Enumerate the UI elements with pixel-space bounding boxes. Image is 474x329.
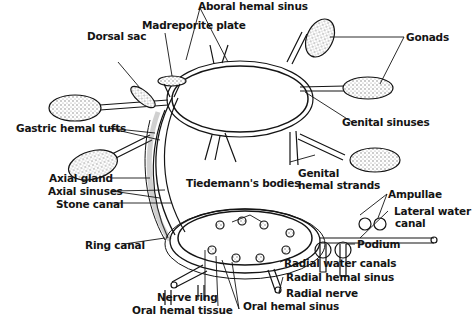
aboral-hemal-ring: [167, 61, 313, 137]
label-lateral-water-canal-1: Lateral water: [394, 206, 471, 217]
label-nerve-ring: Nerve ring: [157, 292, 217, 303]
label-stone-canal: Stone canal: [56, 199, 123, 210]
label-genital-sinuses: Genital sinuses: [342, 117, 430, 128]
anatomy-diagram: [0, 0, 474, 329]
label-radial-water-canals: Radial water canals: [284, 258, 396, 269]
label-madreporite-plate: Madreporite plate: [142, 20, 246, 31]
label-gonads: Gonads: [406, 32, 449, 43]
tiedemanns-bodies: [208, 217, 294, 262]
label-oral-hemal-tissue: Oral hemal tissue: [132, 305, 233, 316]
label-ring-canal: Ring canal: [85, 240, 145, 251]
label-oral-hemal-sinus: Oral hemal sinus: [243, 301, 339, 312]
label-gastric-hemal-tufts: Gastric hemal tufts: [16, 123, 126, 134]
label-ampullae: Ampullae: [388, 189, 442, 200]
label-axial-sinuses: Axial sinuses: [48, 186, 123, 197]
label-aboral-hemal-sinus: Aboral hemal sinus: [198, 1, 308, 12]
label-podium: Podium: [357, 239, 400, 250]
label-radial-nerve: Radial nerve: [286, 288, 358, 299]
label-axial-gland: Axial gland: [49, 173, 113, 184]
label-radial-hemal-sinus: Radial hemal sinus: [286, 272, 394, 283]
label-genital-hemal-strands-2: hemal strands: [298, 180, 380, 191]
label-lateral-water-canal-2: canal: [395, 218, 425, 229]
label-genital-hemal-strands-1: Genital: [298, 168, 339, 179]
label-tiedemanns-bodies: Tiedemann's bodies: [186, 178, 300, 189]
label-dorsal-sac: Dorsal sac: [87, 31, 146, 42]
